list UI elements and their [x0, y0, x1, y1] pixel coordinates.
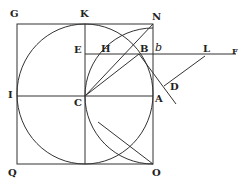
label-Q: Q: [8, 168, 17, 178]
label-G: G: [10, 9, 19, 19]
label-K: K: [80, 9, 89, 19]
label-b: b: [155, 43, 162, 53]
label-C: C: [74, 98, 82, 108]
label-H: H: [101, 44, 110, 54]
label-O: O: [152, 168, 161, 178]
figure-lines: [0, 0, 248, 181]
geometry-figure: G K N E H B b L F I C A D Q O: [0, 0, 248, 181]
label-N: N: [152, 12, 161, 22]
label-F: F: [232, 46, 238, 56]
label-E: E: [74, 45, 82, 55]
line-CB: [85, 54, 139, 96]
label-I: I: [8, 90, 13, 100]
label-B: B: [140, 44, 148, 54]
label-L: L: [203, 44, 210, 54]
label-A: A: [155, 94, 163, 104]
label-D: D: [170, 82, 179, 92]
lower-arc: [85, 96, 153, 164]
